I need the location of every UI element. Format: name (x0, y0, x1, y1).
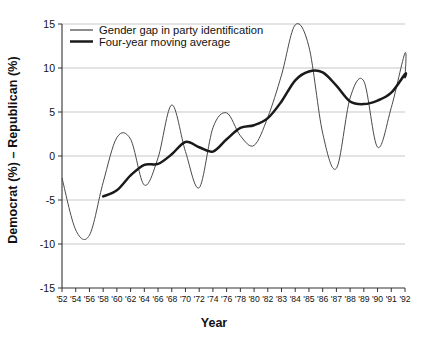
x-tick-label: '64 (139, 294, 150, 304)
x-tick-label: '87 (331, 294, 342, 304)
y-tick-label: -5 (46, 194, 55, 206)
y-tick-label: -15 (40, 282, 55, 294)
x-tick-label: '82 (262, 294, 273, 304)
x-tick-label: '76 (221, 294, 232, 304)
series-line-moving-average (103, 71, 406, 197)
chart-plot: 151050-5-10-15 '52'54'56'58'60'62'64'66'… (0, 0, 428, 339)
x-tick-label: '58 (98, 294, 109, 304)
x-tick-label: '80 (248, 294, 259, 304)
x-axis-ticks: '52'54'56'58'60'62'64'66'68'70'72'74'76'… (56, 288, 410, 304)
x-tick-label: '89 (358, 294, 369, 304)
legend-label: Four-year moving average (99, 36, 230, 48)
x-tick-label: '90 (372, 294, 383, 304)
x-tick-label: '83 (276, 294, 287, 304)
data-series-layer (62, 24, 406, 240)
x-tick-label: '70 (180, 294, 191, 304)
x-tick-label: '56 (84, 294, 95, 304)
x-tick-label: '78 (235, 294, 246, 304)
x-tick-label: '72 (194, 294, 205, 304)
chart-container: Democrat (%) – Republican (%) 151050-5-1… (0, 0, 428, 339)
chart-legend: Gender gap in party identificationFour-y… (70, 24, 263, 48)
x-tick-label: '91 (386, 294, 397, 304)
x-tick-label: '60 (111, 294, 122, 304)
x-tick-label: '66 (152, 294, 163, 304)
x-tick-label: '84 (290, 294, 301, 304)
y-axis-ticks: 151050-5-10-15 (40, 18, 62, 294)
x-tick-label: '85 (303, 294, 314, 304)
y-tick-label: 10 (43, 62, 55, 74)
x-axis-title: Year (0, 316, 428, 330)
x-tick-label: '54 (70, 294, 81, 304)
y-tick-label: 15 (43, 18, 55, 30)
y-tick-label: 0 (49, 150, 55, 162)
x-tick-label: '52 (56, 294, 67, 304)
legend-label: Gender gap in party identification (99, 24, 263, 36)
x-tick-label: '92 (399, 294, 410, 304)
x-tick-label: '74 (207, 294, 218, 304)
y-tick-label: 5 (49, 106, 55, 118)
x-tick-label: '88 (345, 294, 356, 304)
y-tick-label: -10 (40, 238, 55, 250)
x-tick-label: '62 (125, 294, 136, 304)
x-tick-label: '86 (317, 294, 328, 304)
x-tick-label: '68 (166, 294, 177, 304)
